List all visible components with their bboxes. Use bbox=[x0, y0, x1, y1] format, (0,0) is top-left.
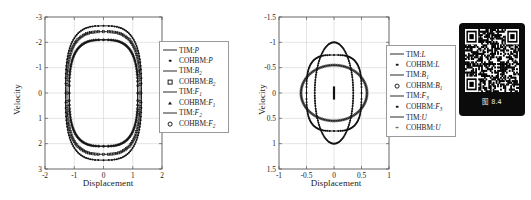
y-tick-label: 3 bbox=[21, 165, 42, 174]
legend-key-line-icon bbox=[162, 45, 178, 55]
y-tick-label: 2 bbox=[21, 139, 42, 148]
legend-key-line-icon bbox=[389, 70, 405, 80]
x-tick-label: -1 bbox=[62, 171, 86, 180]
legend-item-label: COHBM:B1 bbox=[406, 81, 442, 91]
y-tick-label: -0.5 bbox=[255, 63, 276, 72]
y-tick-label: -1.5 bbox=[255, 13, 276, 22]
legend-key-dot-icon bbox=[389, 60, 405, 70]
legend-item: COHBM:B1 bbox=[389, 81, 451, 92]
legend-item-label: COHBM:F1 bbox=[179, 98, 215, 108]
legend-key-circ-icon bbox=[389, 81, 405, 91]
legend-item: +COHBM:U bbox=[389, 123, 451, 134]
legend-key-line-icon bbox=[162, 87, 178, 97]
legend-item: COHBM:B2 bbox=[162, 77, 224, 88]
legend-key-plus-icon: + bbox=[389, 123, 405, 133]
legend-item: TIM:F3 bbox=[389, 91, 451, 102]
x-tick-label: -0.5 bbox=[295, 171, 319, 180]
y-tick-label: 1.5 bbox=[255, 165, 276, 174]
legend-key-line-icon bbox=[389, 91, 405, 101]
y-tick-label: -1 bbox=[255, 38, 276, 47]
x-tick-label: 1 bbox=[121, 171, 145, 180]
legend-item: COHBM:P bbox=[162, 56, 224, 67]
legend-item-label: COHBM:P bbox=[179, 56, 213, 65]
legend-item: TIM:L bbox=[389, 49, 451, 60]
legend-item-label: COHBM:U bbox=[406, 123, 441, 132]
y-tick-label: 1 bbox=[21, 114, 42, 123]
qr-code-image bbox=[465, 29, 519, 92]
legend-left: TIM:PCOHBM:PTIM:B2COHBM:B2TIM:F1COHBM:F1… bbox=[159, 41, 229, 133]
legend-item: COHBM:F2 bbox=[162, 119, 224, 130]
legend-item-label: TIM:U bbox=[406, 113, 427, 122]
legend-right: TIM:LCOHBM:LTIM:B1COHBM:B1TIM:F3COHBM:F3… bbox=[386, 45, 456, 137]
y-tick-label: 0.5 bbox=[255, 114, 276, 123]
legend-item-label: COHBM:F2 bbox=[179, 119, 215, 129]
legend-item: COHBM:L bbox=[389, 60, 451, 71]
y-tick-label: -3 bbox=[21, 13, 42, 22]
legend-item-label: TIM:L bbox=[406, 50, 426, 59]
legend-key-line-icon bbox=[389, 49, 405, 59]
figure-container: Displacement Velocity TIM:PCOHBM:PTIM:B2… bbox=[0, 0, 531, 200]
legend-item: COHBM:F1 bbox=[162, 98, 224, 109]
legend-item-label: COHBM:F3 bbox=[406, 102, 442, 112]
legend-item: TIM:P bbox=[162, 45, 224, 56]
legend-item-label: TIM:P bbox=[179, 46, 199, 55]
x-tick-label: 0 bbox=[322, 171, 346, 180]
legend-key-line-icon bbox=[162, 108, 178, 118]
legend-item: TIM:F2 bbox=[162, 108, 224, 119]
x-tick-label: 1 bbox=[377, 171, 401, 180]
legend-item-label: TIM:F2 bbox=[179, 108, 202, 118]
legend-item-label: COHBM:B2 bbox=[179, 77, 215, 87]
x-tick-label: 0 bbox=[92, 171, 116, 180]
x-tick-label: 2 bbox=[150, 171, 174, 180]
legend-item-label: TIM:F3 bbox=[406, 91, 429, 101]
legend-item-label: TIM:B1 bbox=[406, 70, 429, 80]
qr-code-card[interactable]: 图 8.4 bbox=[459, 23, 525, 116]
legend-key-dot-icon bbox=[162, 56, 178, 66]
legend-key-tri-icon bbox=[162, 98, 178, 108]
legend-item: TIM:F1 bbox=[162, 87, 224, 98]
legend-key-line-icon bbox=[162, 66, 178, 76]
legend-item: TIM:U bbox=[389, 112, 451, 123]
legend-key-sq-icon bbox=[162, 77, 178, 87]
legend-item: TIM:B1 bbox=[389, 70, 451, 81]
y-tick-label: 0 bbox=[21, 89, 42, 98]
y-tick-label: -1 bbox=[21, 63, 42, 72]
legend-item-label: COHBM:L bbox=[406, 60, 439, 69]
y-tick-label: -2 bbox=[21, 38, 42, 47]
legend-item-label: TIM:B2 bbox=[179, 66, 202, 76]
legend-item: COHBM:F3 bbox=[389, 102, 451, 113]
figure-caption: 图 8.4 bbox=[459, 95, 525, 109]
phase-portrait-panel-left: Displacement Velocity TIM:PCOHBM:PTIM:B2… bbox=[0, 0, 265, 200]
legend-key-circ-icon bbox=[162, 119, 178, 129]
y-tick-label: 1 bbox=[255, 139, 276, 148]
legend-key-line-icon bbox=[389, 112, 405, 122]
legend-item: TIM:B2 bbox=[162, 66, 224, 77]
legend-key-dot-icon bbox=[389, 102, 405, 112]
x-tick-label: 0.5 bbox=[350, 171, 374, 180]
phase-portrait-panel-right: Displacement Velocity TIM:LCOHBM:LTIM:B1… bbox=[250, 0, 450, 200]
y-tick-label: 0 bbox=[255, 89, 276, 98]
legend-item-label: TIM:F1 bbox=[179, 87, 202, 97]
